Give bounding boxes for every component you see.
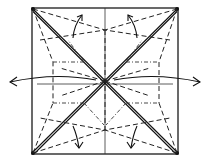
arrow-right-icon — [114, 76, 200, 86]
crease-pattern-diagram — [0, 0, 210, 168]
